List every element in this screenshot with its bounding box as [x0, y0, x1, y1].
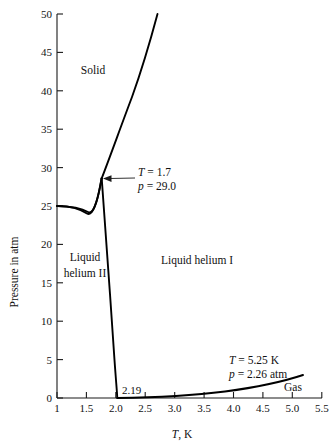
- x-axis-title-rest: , K: [178, 428, 193, 441]
- lambda-annotation-temperature: T = 1.7: [138, 166, 171, 178]
- melting-curve-helium-ii-shape: [57, 178, 102, 214]
- lambda-leader-line: [110, 178, 135, 179]
- x-tick-label-3-5: 3.5: [197, 402, 211, 414]
- region-label-helium-ii: Liquid helium II: [64, 251, 107, 279]
- lambda-t-value: = 1.7: [144, 166, 171, 178]
- x-tick-label-5-5: 5.5: [315, 402, 329, 414]
- critical-t-value: = 5.25 K: [235, 354, 279, 366]
- x-tick-label-2-5: 2.5: [138, 402, 152, 414]
- y-tick-label-30: 30: [41, 162, 53, 174]
- lambda-line: [102, 178, 118, 398]
- region-label-helium-i: Liquid helium I: [161, 254, 233, 267]
- y-tick-label-5: 5: [47, 354, 53, 366]
- x-axis-title: T, K: [172, 428, 193, 441]
- y-axis-tick-labels: 0 5 10 15 20 25 30 35 40 45 50: [41, 8, 53, 404]
- region-label-gas: Gas: [284, 381, 302, 393]
- x-tick-label-4-5: 4.5: [256, 402, 270, 414]
- lambda-point-annotation: T = 1.7 p = 29.0: [137, 166, 176, 193]
- y-tick-label-25: 25: [41, 200, 53, 212]
- helium-phase-diagram-figure: 0 5 10 15 20 25 30 35 40 45 50 1: [0, 0, 332, 447]
- critical-point-annotation: T = 5.25 K p = 2.26 atm: [228, 354, 287, 381]
- y-tick-label-0: 0: [47, 392, 53, 404]
- phase-diagram-svg: 0 5 10 15 20 25 30 35 40 45 50 1: [0, 0, 332, 447]
- svg-text:T, K: T, K: [172, 428, 193, 441]
- y-tick-label-15: 15: [41, 277, 53, 289]
- x-tick-label-1-5: 1.5: [80, 402, 94, 414]
- y-tick-label-45: 45: [41, 46, 53, 58]
- y-tick-label-40: 40: [41, 85, 53, 97]
- y-tick-label-35: 35: [41, 123, 53, 135]
- region-label-helium-ii-line1: Liquid: [70, 251, 101, 264]
- lambda-annotation-pressure: p = 29.0: [137, 180, 176, 193]
- critical-p-value: = 2.26 atm: [235, 368, 288, 380]
- region-label-helium-ii-line2: helium II: [64, 267, 107, 279]
- lambda-p-value: = 29.0: [144, 180, 177, 192]
- y-tick-label-10: 10: [41, 315, 53, 327]
- y-axis-title: Pressure in atm: [8, 236, 20, 307]
- melting-curve-helium-i: [102, 14, 158, 178]
- x-tick-label-5-0: 5.0: [285, 402, 299, 414]
- x-tick-label-3-0: 3.0: [168, 402, 182, 414]
- y-tick-label-50: 50: [41, 8, 53, 20]
- lambda-x-intercept-label: 2.19: [122, 384, 142, 396]
- lambda-point-leader: [103, 175, 135, 182]
- y-tick-label-20: 20: [41, 238, 53, 250]
- x-tick-label-4-0: 4.0: [227, 402, 241, 414]
- critical-annotation-temperature: T = 5.25 K: [229, 354, 280, 366]
- critical-annotation-pressure: p = 2.26 atm: [228, 368, 287, 381]
- x-tick-label-2-0: 2.0: [109, 402, 123, 414]
- region-label-solid: Solid: [81, 64, 106, 76]
- x-axis-tick-labels: 1 1.5 2.0 2.5 3.0 3.5 4.0 4.5 5.0 5.5: [54, 402, 329, 414]
- x-tick-label-1: 1: [54, 402, 60, 414]
- lambda-leader-arrowhead: [103, 175, 112, 182]
